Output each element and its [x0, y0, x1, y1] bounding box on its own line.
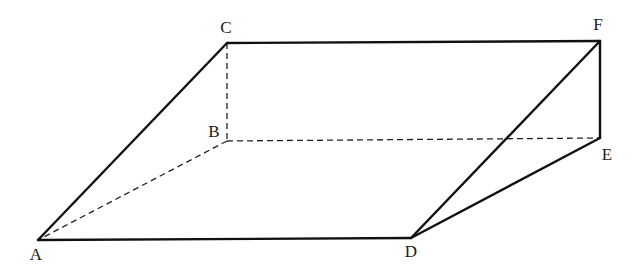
vertex-label-d: D: [405, 242, 417, 261]
edge-be: [227, 138, 600, 141]
vertex-label-a: A: [30, 245, 43, 264]
vertex-label-c: C: [220, 18, 231, 37]
hidden-edges: [38, 43, 600, 240]
edge-ad: [38, 238, 411, 240]
vertex-label-f: F: [593, 15, 602, 34]
vertex-label-e: E: [602, 145, 612, 164]
edge-ba: [38, 141, 227, 240]
edge-cf: [227, 41, 600, 43]
vertex-labels: A B C D E F: [30, 15, 612, 264]
prism-diagram: A B C D E F: [0, 0, 636, 274]
edge-de: [411, 138, 600, 238]
edge-ac: [38, 43, 227, 240]
vertex-label-b: B: [208, 122, 219, 141]
